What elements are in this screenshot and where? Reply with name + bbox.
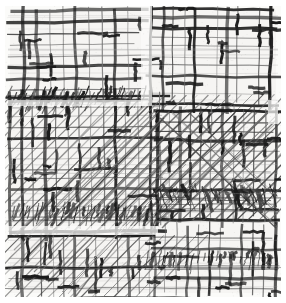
artwork-container: Untitled Crosshatch Study pen and ink on… <box>0 0 286 303</box>
ink-drawing-canvas <box>0 0 286 303</box>
